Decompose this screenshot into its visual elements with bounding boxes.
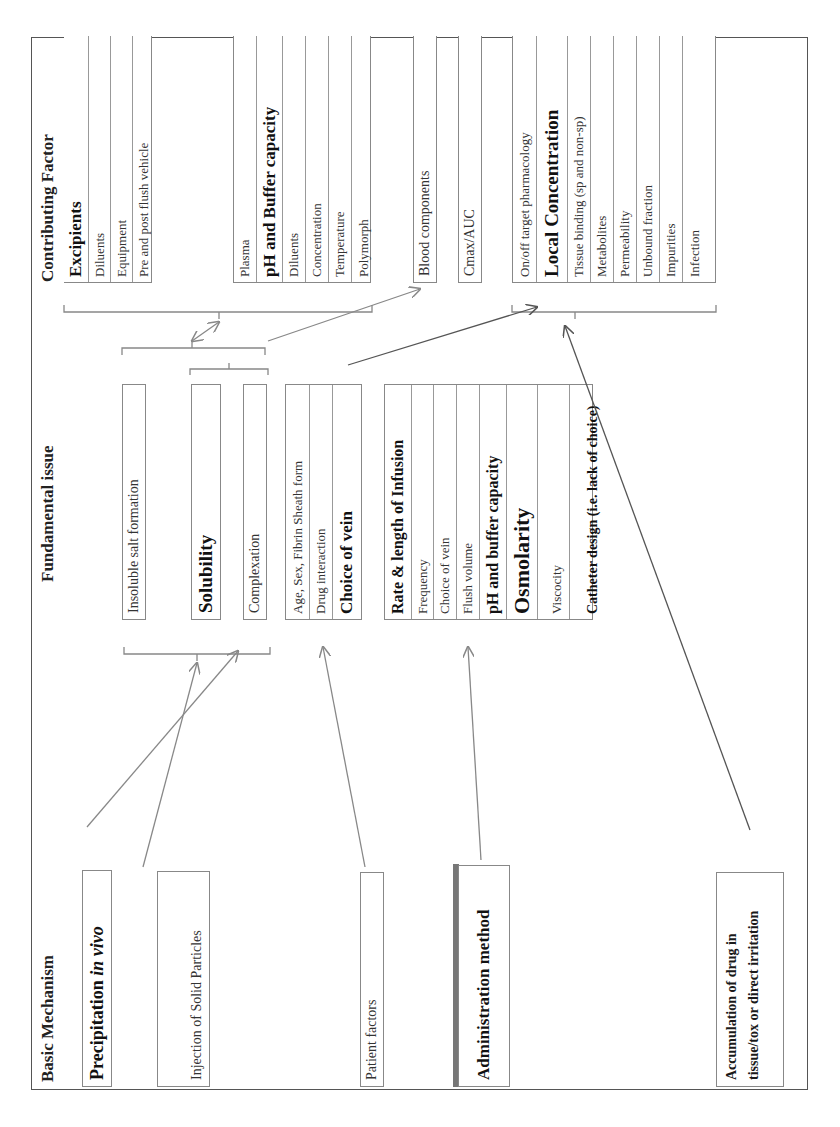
- bracket-fundamental-upper: [122, 341, 265, 355]
- arrow-patient-to-patient-issues: [323, 647, 365, 867]
- diagram-stage: Basic Mechanism Fundamental issue Contri…: [0, 0, 840, 1127]
- bracket-solubility-complexation: [190, 363, 268, 375]
- arrow-admin-to-admin-issues: [468, 647, 481, 860]
- arrow-accumulation-to-local: [565, 326, 750, 830]
- bracket-contributing-local: [512, 305, 716, 319]
- arrow-choice-of-vein-to-local: [348, 307, 537, 365]
- connector-layer: [0, 0, 840, 1127]
- arrow-complexation-to-blood: [268, 289, 420, 341]
- bracket-contributing-upper: [64, 305, 372, 319]
- arrow-precipitation-to-complexation: [87, 651, 238, 827]
- arrow-fundamental-to-contributing-upper: [192, 322, 219, 341]
- bracket-fundamental-precip: [124, 647, 270, 661]
- arrow-injection-to-bracket: [143, 663, 197, 867]
